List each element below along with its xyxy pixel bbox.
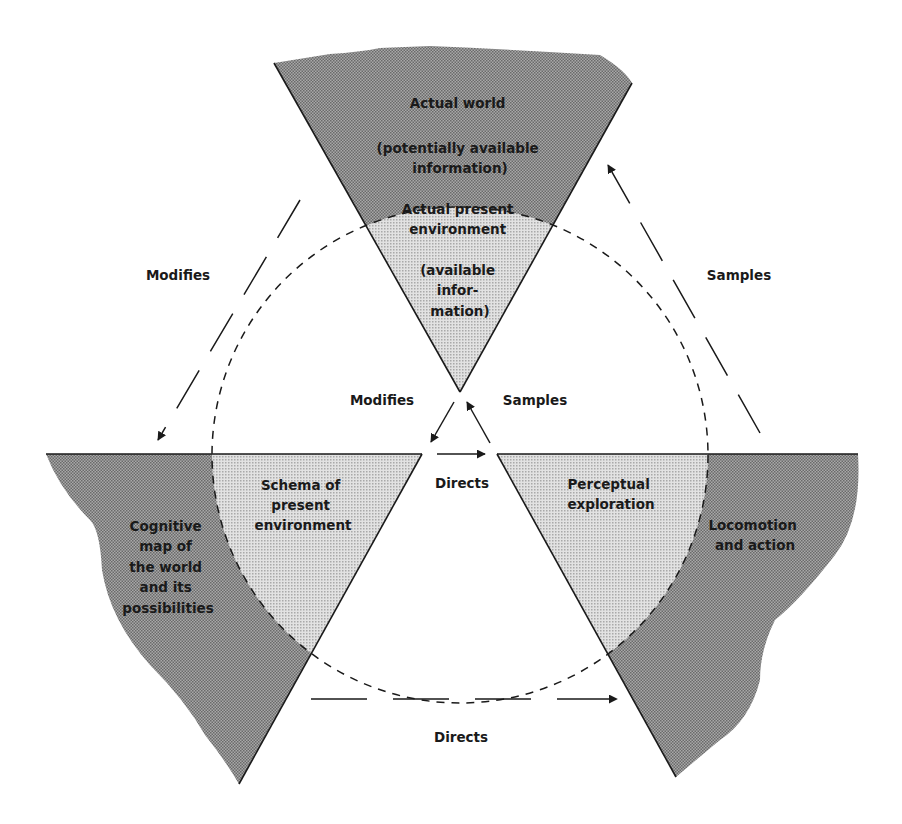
outer-modifies-label: Modifies (146, 267, 210, 283)
inner-modifies-label: Modifies (350, 392, 414, 408)
perceptual-cycle-diagram: Actual world (potentially available info… (0, 0, 902, 824)
inner-samples-label: Samples (503, 392, 567, 408)
outer-samples-arrow (608, 165, 760, 433)
cognitive-map-label: Cognitive map of the world and its possi… (122, 518, 213, 616)
outer-directs-label: Directs (434, 729, 488, 745)
inner-modifies-arrow (431, 402, 454, 442)
inner-samples-arrow (467, 402, 490, 443)
outer-modifies-arrow (158, 200, 300, 440)
left-triangle (46, 454, 422, 784)
right-triangle (497, 454, 859, 777)
outer-samples-label: Samples (707, 267, 771, 283)
inner-directs-label: Directs (435, 475, 489, 491)
